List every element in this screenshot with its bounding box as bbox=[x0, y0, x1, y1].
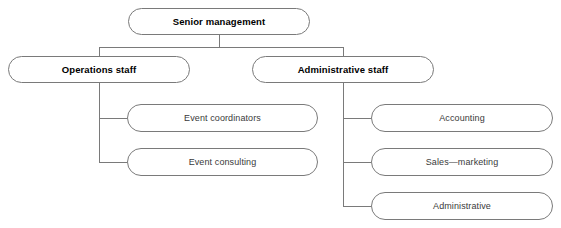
node-label-accounting: Accounting bbox=[439, 114, 485, 123]
node-administrative-staff[interactable]: Administrative staff bbox=[252, 56, 434, 83]
node-label-senior-management: Senior management bbox=[173, 17, 266, 27]
node-label-operations-staff: Operations staff bbox=[62, 65, 136, 75]
node-event-coordinators[interactable]: Event coordinators bbox=[127, 104, 318, 132]
node-label-administrative-staff: Administrative staff bbox=[298, 65, 389, 75]
node-event-consulting[interactable]: Event consulting bbox=[127, 148, 318, 176]
node-senior-management[interactable]: Senior management bbox=[128, 8, 310, 35]
node-operations-staff[interactable]: Operations staff bbox=[8, 56, 190, 83]
node-label-sales-marketing: Sales—marketing bbox=[426, 158, 499, 167]
node-sales-marketing[interactable]: Sales—marketing bbox=[371, 148, 553, 176]
org-chart: Senior management Operations staff Admin… bbox=[0, 0, 561, 228]
node-label-event-consulting: Event consulting bbox=[189, 158, 257, 167]
node-accounting[interactable]: Accounting bbox=[371, 104, 553, 132]
node-administrative[interactable]: Administrative bbox=[371, 192, 553, 220]
node-label-event-coordinators: Event coordinators bbox=[184, 114, 261, 123]
node-label-administrative: Administrative bbox=[433, 202, 491, 211]
